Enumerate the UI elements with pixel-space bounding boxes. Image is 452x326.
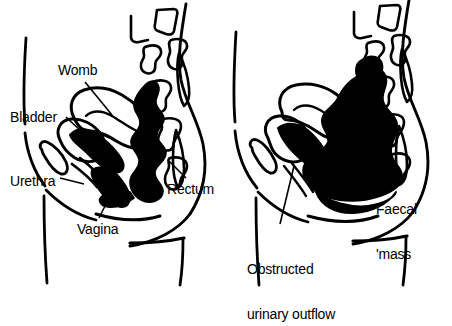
abdominal-wall-line: [234, 32, 236, 122]
label-obstructed-urinary-outflow: Obstructed urinary outflow: [247, 232, 335, 326]
coccyx-icon: [173, 130, 184, 188]
label-obstructed-line1: Obstructed: [247, 262, 335, 277]
vertebra-icon: [155, 9, 178, 35]
label-urethra: Urethra: [10, 174, 55, 189]
urethra-organ: [250, 140, 276, 174]
label-bladder: Bladder: [10, 110, 57, 125]
label-obstructed-line2: urinary outflow: [247, 307, 335, 322]
rectum-organ: [130, 81, 166, 202]
label-womb: Womb: [58, 63, 97, 78]
faecal-mass-upper-lobe: [356, 57, 382, 81]
leader-urethra: [60, 178, 84, 184]
label-faecal-mass-line1: Faecal: [376, 202, 417, 217]
pelvic-floor-line: [96, 214, 160, 220]
normal-pelvis-panel: [0, 0, 226, 289]
thigh-front-line: [44, 196, 47, 283]
perineum-line: [258, 192, 308, 222]
vertebra-icon: [141, 45, 161, 73]
perineum-line: [46, 190, 96, 220]
label-rectum: Rectum: [167, 182, 214, 197]
label-faecal-mass-line2: 'mass: [376, 247, 417, 262]
label-vagina: Vagina: [77, 222, 118, 237]
pelvic-floor-line: [308, 216, 378, 221]
vertebra-icon: [354, 12, 371, 38]
thigh-back-line: [180, 240, 183, 285]
vertebra-icon: [131, 16, 148, 42]
vertebra-icon: [378, 5, 401, 31]
normal-pelvis-drawing: [0, 0, 226, 289]
bowel-loops: [70, 129, 124, 172]
label-faecal-mass: Faecal 'mass: [376, 172, 417, 292]
